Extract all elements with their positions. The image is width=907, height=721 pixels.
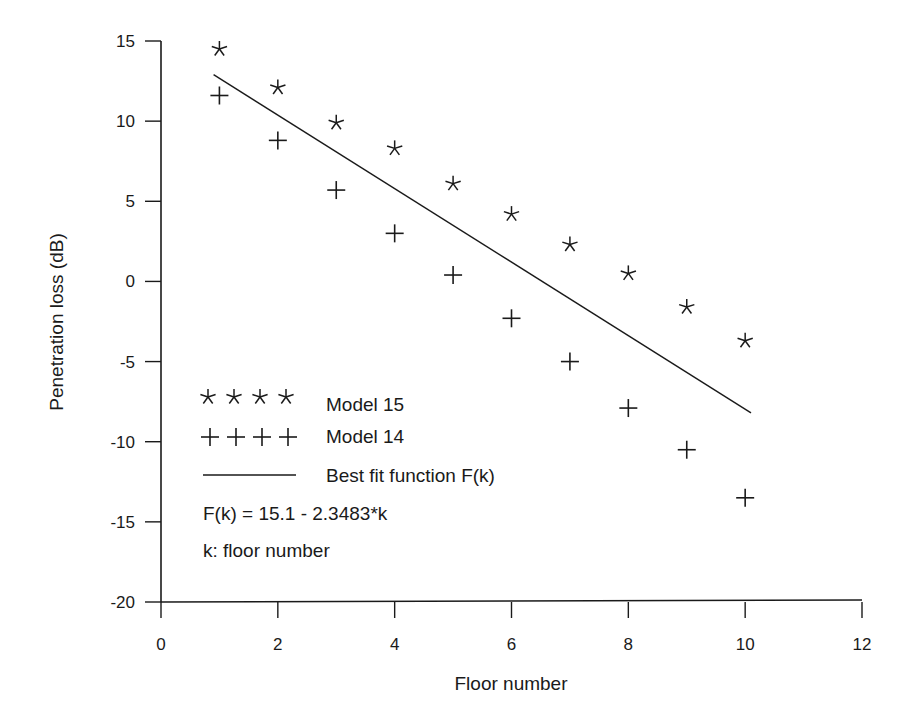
star-marker [270,79,285,93]
model-14-markers [210,86,754,506]
legend-fit-label: Best fit function F(k) [326,465,495,486]
y-tick-label: -15 [110,513,135,532]
star-marker [329,115,344,129]
plus-marker [327,181,345,199]
plus-marker [619,399,637,417]
x-tick-label: 12 [853,635,872,654]
y-tick-label: 15 [116,32,135,51]
plus-marker [210,86,228,104]
x-tick-label: 8 [624,635,633,654]
star-marker [621,265,636,279]
star-marker [445,176,460,190]
x-tick-label: 0 [156,635,165,654]
y-tick-label: 0 [126,272,135,291]
x-axis-ticks: 024681012 [156,602,871,654]
x-tick-label: 2 [273,635,282,654]
plus-marker [736,489,754,507]
legend-formula: F(k) = 15.1 - 2.3483*k [203,503,388,524]
legend: Model 15 Model 14 Best fit function F(k)… [200,389,495,561]
legend-star-symbols [200,389,293,403]
star-marker [252,389,267,403]
y-tick-label: -5 [120,353,135,372]
star-marker [278,389,293,403]
star-marker [562,237,577,251]
legend-model-14-label: Model 14 [326,426,405,447]
y-tick-label: -20 [110,593,135,612]
plus-marker [279,428,297,446]
fit-line-segment [214,75,751,413]
plus-marker [227,428,245,446]
y-tick-label: -10 [110,433,135,452]
plus-marker [253,428,271,446]
x-axis-line [161,600,862,602]
star-marker [200,389,215,403]
best-fit-line [214,75,751,413]
star-marker [679,299,694,313]
plus-marker [503,309,521,327]
plus-marker [561,353,579,371]
x-tick-label: 10 [736,635,755,654]
star-marker [504,206,519,220]
model-15-markers [212,41,753,347]
star-marker [226,389,241,403]
y-tick-label: 10 [116,112,135,131]
legend-k-note: k: floor number [203,540,330,561]
x-tick-label: 4 [390,635,399,654]
x-tick-label: 6 [507,635,516,654]
y-axis-title: Penetration loss (dB) [46,233,67,410]
star-marker [212,41,227,55]
plus-marker [444,266,462,284]
plus-marker [269,131,287,149]
plus-marker [201,428,219,446]
y-axis-ticks: 151050-5-10-15-20 [110,32,161,612]
plus-marker [678,441,696,459]
chart: 151050-5-10-15-20 024681012 Penetration … [0,0,907,721]
plus-marker [386,224,404,242]
y-tick-label: 5 [126,192,135,211]
legend-model-15-label: Model 15 [326,394,404,415]
star-marker [738,333,753,347]
legend-plus-symbols [201,428,297,446]
star-marker [387,140,402,154]
x-axis-title: Floor number [455,673,569,694]
